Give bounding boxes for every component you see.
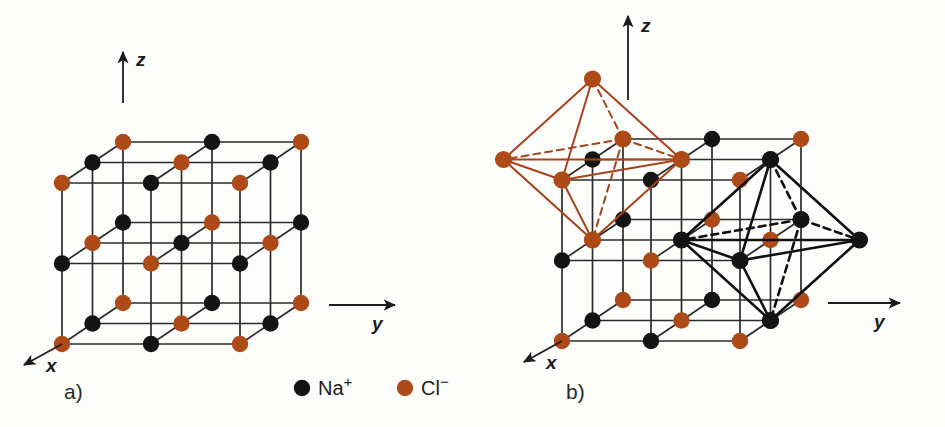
chloride-ion xyxy=(232,336,248,352)
chloride-ion xyxy=(173,315,189,331)
chloride-ion xyxy=(615,292,631,308)
chloride-ion xyxy=(232,175,248,191)
chloride-octahedron-vertex xyxy=(553,171,570,188)
chloride-octahedron-hidden-edge xyxy=(623,139,682,160)
chloride-ion xyxy=(732,333,748,349)
axis-z-label: z xyxy=(135,49,146,70)
legend-item-sodium-ion: Na+ xyxy=(294,373,353,399)
chloride-octahedron-edge xyxy=(504,160,593,241)
sodium-ion xyxy=(704,131,720,147)
chloride-ion xyxy=(84,235,100,251)
sodium-octahedron-vertex xyxy=(731,252,748,269)
sodium-ion xyxy=(84,315,100,331)
nacl-structure-figure: zyxa) zyxb) Na+Cl− xyxy=(0,0,945,427)
axis-y-label: y xyxy=(873,311,886,332)
chloride-ion xyxy=(204,214,220,230)
axis-x-label: x xyxy=(45,355,58,376)
chloride-octahedron-vertex xyxy=(584,231,601,248)
chloride-ion xyxy=(115,295,131,311)
chloride-octahedron-edge xyxy=(562,180,593,240)
sodium-ion xyxy=(204,295,220,311)
figure-canvas: zyxa) zyxb) Na+Cl− xyxy=(0,0,945,427)
sodium-ion xyxy=(643,333,659,349)
panel-a-label: a) xyxy=(64,380,83,403)
sodium-ion xyxy=(173,235,189,251)
chloride-octahedron-vertex xyxy=(614,130,631,147)
chloride-octahedron-vertex xyxy=(495,151,512,168)
chloride-octahedron-vertex xyxy=(673,151,690,168)
panel-a: zyxa) xyxy=(24,49,395,403)
sodium-octahedron-edge xyxy=(682,240,741,261)
sodium-ion-charge: + xyxy=(344,373,353,390)
sodium-ion xyxy=(204,134,220,150)
chloride-octahedron-edge xyxy=(504,79,593,160)
legend: Na+Cl− xyxy=(294,373,449,399)
chloride-ion-swatch xyxy=(397,380,413,396)
chloride-octahedron-edge xyxy=(593,79,682,160)
sodium-ion xyxy=(232,255,248,271)
sodium-ion-swatch xyxy=(294,380,310,396)
chloride-ion xyxy=(293,134,309,150)
sodium-ion xyxy=(262,154,278,170)
sodium-octahedron-hidden-edge xyxy=(801,220,860,241)
chloride-octahedron-hidden-edge xyxy=(593,79,624,139)
axis-z-label: z xyxy=(640,15,651,36)
chloride-ion xyxy=(143,255,159,271)
chloride-ion xyxy=(793,131,809,147)
sodium-ion xyxy=(84,154,100,170)
axis-y-label: y xyxy=(371,313,384,334)
chloride-octahedron-vertex xyxy=(584,70,601,87)
sodium-ion-label: Na+ xyxy=(318,373,353,399)
sodium-octahedron-hidden-edge xyxy=(771,160,802,220)
sodium-ion xyxy=(584,312,600,328)
sodium-octahedron-vertex xyxy=(792,211,809,228)
axis-z: z xyxy=(628,15,651,100)
sodium-ion xyxy=(262,315,278,331)
chloride-ion xyxy=(262,235,278,251)
axis-z: z xyxy=(123,49,146,103)
chloride-octahedron-edge xyxy=(504,160,563,181)
sodium-ion xyxy=(704,292,720,308)
chloride-ion-label: Cl− xyxy=(421,373,449,399)
sodium-octahedron-vertex xyxy=(673,231,690,248)
sodium-ion xyxy=(54,255,70,271)
sodium-ion xyxy=(143,175,159,191)
sodium-octahedron-vertex xyxy=(762,312,779,329)
axis-y: y xyxy=(329,305,395,334)
panel-b-label: b) xyxy=(566,380,585,403)
chloride-ion xyxy=(54,175,70,191)
sodium-octahedron-edge xyxy=(740,261,771,321)
sodium-ion xyxy=(115,214,131,230)
sodium-octahedron-vertex xyxy=(851,231,868,248)
chloride-ion xyxy=(115,134,131,150)
chloride-ion xyxy=(293,295,309,311)
chloride-ion xyxy=(673,312,689,328)
sodium-octahedron-edge xyxy=(771,160,860,241)
chloride-ion xyxy=(643,252,659,268)
axis-y: y xyxy=(828,303,900,332)
sodium-octahedron-vertex xyxy=(762,151,779,168)
sodium-ion xyxy=(554,252,570,268)
sodium-octahedron-edge xyxy=(682,240,771,321)
sodium-ion xyxy=(293,214,309,230)
chloride-ion-charge: − xyxy=(440,373,449,390)
lattice-ions xyxy=(54,134,309,352)
sodium-ion xyxy=(143,336,159,352)
legend-item-chloride-ion: Cl− xyxy=(397,373,449,399)
chloride-ion xyxy=(173,154,189,170)
panel-b: zyxb) xyxy=(495,15,900,403)
axis-x-label: x xyxy=(545,352,558,373)
